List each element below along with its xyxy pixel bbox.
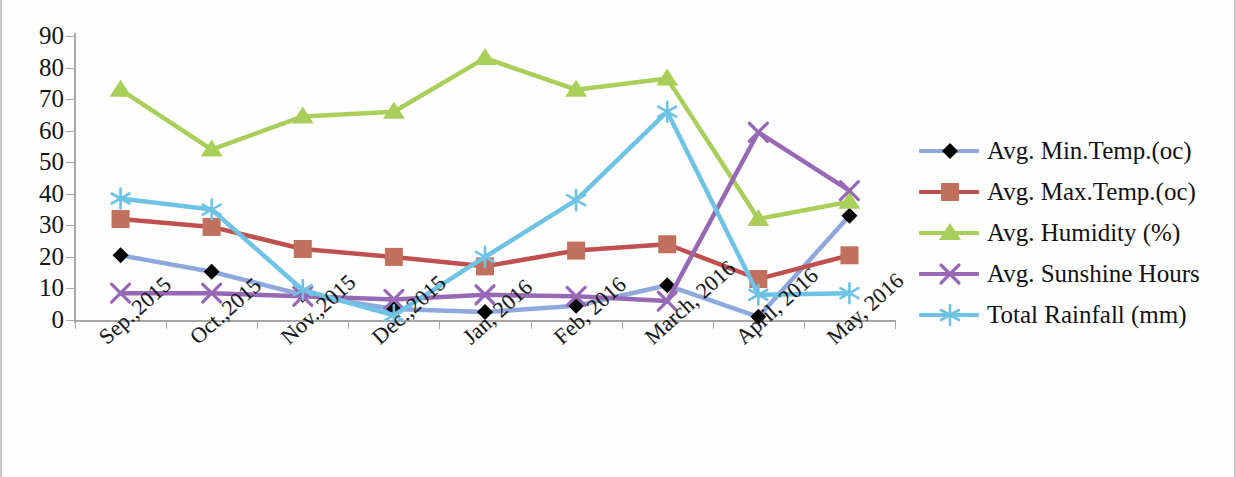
y-axis-tick-label: 60 — [8, 118, 64, 143]
x-axis-tick — [622, 320, 623, 329]
y-axis-tick-label: 40 — [8, 181, 64, 206]
data-point-marker — [385, 248, 403, 266]
data-point-marker — [477, 304, 493, 320]
x-axis-tick — [804, 320, 805, 329]
legend-item-1[interactable]: Avg. Min.Temp.(oc) — [917, 130, 1227, 171]
y-axis-tick — [66, 257, 75, 258]
y-axis-tick-label: 90 — [8, 23, 64, 48]
legend-item-4[interactable]: Avg. Sunshine Hours — [917, 253, 1227, 294]
y-axis-tick-label: 50 — [8, 149, 64, 174]
y-axis-tick — [66, 36, 75, 37]
y-axis-tick — [66, 162, 75, 163]
legend-key-swatch — [917, 179, 981, 205]
series-4 — [112, 123, 859, 310]
legend-marker-triangle-icon — [937, 220, 963, 246]
legend-item-label: Total Rainfall (mm) — [987, 301, 1187, 328]
y-axis-tick — [66, 194, 75, 195]
legend-key-swatch — [917, 261, 981, 287]
x-axis-tick — [439, 320, 440, 329]
x-axis-line — [74, 320, 896, 322]
y-axis-tick — [66, 288, 75, 289]
x-axis-tick — [75, 320, 76, 329]
y-axis-tick — [66, 131, 75, 132]
legend-marker-cross-x-icon — [937, 261, 963, 287]
data-point-marker — [113, 247, 129, 263]
legend-key-swatch — [917, 302, 981, 328]
series-canvas — [75, 36, 895, 320]
legend-item-3[interactable]: Avg. Humidity (%) — [917, 212, 1227, 253]
y-axis-tick-label: 80 — [8, 55, 64, 80]
y-axis-tick-label: 30 — [8, 212, 64, 237]
y-axis-tick-label: 20 — [8, 244, 64, 269]
data-point-marker — [204, 264, 220, 280]
data-point-marker — [939, 223, 961, 240]
data-point-marker — [656, 69, 678, 86]
x-axis-tick — [531, 320, 532, 329]
plot-area — [75, 36, 895, 320]
legend-item-label: Avg. Max.Temp.(oc) — [987, 178, 1196, 205]
x-axis-tick — [166, 320, 167, 329]
y-axis-tick-label: 0 — [8, 307, 64, 332]
y-axis-tick — [66, 68, 75, 69]
legend-marker-asterisk-icon — [937, 302, 963, 328]
y-axis-tick — [66, 225, 75, 226]
chart-legend: Avg. Min.Temp.(oc)Avg. Max.Temp.(oc)Avg.… — [917, 130, 1227, 335]
x-axis-tick — [348, 320, 349, 329]
legend-marker-diamond-icon — [937, 138, 963, 164]
chart-container: 9080706050403020100 Sep.,2015Oct.,2015No… — [0, 0, 1236, 477]
data-point-marker — [567, 242, 585, 260]
legend-key-swatch — [917, 138, 981, 164]
legend-marker-square-icon — [937, 179, 963, 205]
x-axis-tick — [257, 320, 258, 329]
series-3 — [110, 48, 861, 226]
legend-key-swatch — [917, 220, 981, 246]
data-point-marker — [658, 235, 676, 253]
data-point-marker — [941, 183, 959, 201]
data-point-marker — [840, 246, 858, 264]
data-point-marker — [942, 143, 958, 159]
data-point-marker — [474, 48, 496, 65]
x-axis-tick — [895, 320, 896, 329]
y-axis-tick — [66, 99, 75, 100]
y-axis-tick-label: 70 — [8, 86, 64, 111]
x-axis-tick — [713, 320, 714, 329]
legend-item-label: Avg. Sunshine Hours — [987, 260, 1200, 287]
legend-item-5[interactable]: Total Rainfall (mm) — [917, 294, 1227, 335]
legend-item-2[interactable]: Avg. Max.Temp.(oc) — [917, 171, 1227, 212]
data-point-marker — [110, 80, 132, 97]
series-line — [121, 58, 850, 219]
legend-item-label: Avg. Min.Temp.(oc) — [987, 137, 1192, 164]
y-axis-labels: 9080706050403020100 — [2, 0, 64, 340]
y-axis-tick-label: 10 — [8, 275, 64, 300]
data-point-marker — [294, 240, 312, 258]
data-point-marker — [112, 210, 130, 228]
legend-item-label: Avg. Humidity (%) — [987, 219, 1180, 246]
